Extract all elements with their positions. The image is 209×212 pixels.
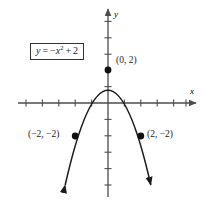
- plot-canvas: x y: [0, 0, 209, 212]
- parabola-figure: x y: [0, 0, 209, 212]
- point-left: [72, 133, 79, 140]
- equation-rhs-constant: 2: [73, 45, 78, 56]
- x-axis: x: [18, 86, 196, 107]
- equation-lhs: y: [36, 45, 40, 56]
- point-right: [137, 133, 144, 140]
- equation-rhs-exponent: 2: [60, 44, 63, 51]
- point-vertex: [105, 67, 112, 74]
- y-axis-label: y: [113, 9, 118, 19]
- x-axis-label: x: [189, 86, 194, 96]
- equation-relation: =: [42, 45, 48, 56]
- equation-box: y=−x2+2: [30, 43, 84, 60]
- label-right-point: (2, −2): [147, 130, 173, 140]
- label-vertex: (0, 2): [116, 56, 137, 66]
- equation-rhs-operator: +: [65, 45, 71, 56]
- label-left-point: (−2, −2): [28, 130, 59, 140]
